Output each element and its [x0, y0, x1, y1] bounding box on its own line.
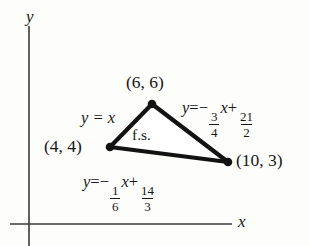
equation-right-slope-fraction: 34 — [209, 110, 220, 139]
equation-right-constant-numerator: 21 — [238, 110, 255, 124]
vertex-dot-top — [148, 100, 157, 109]
equation-bottom-slope-numerator: 1 — [110, 184, 121, 198]
vertex-label-6-6: (6, 6) — [126, 74, 164, 92]
equation-right-edge: y=−34x+212 — [182, 100, 256, 139]
equation-right-equals: = — [189, 98, 198, 117]
equation-bottom-sign: − — [100, 172, 109, 191]
equation-right-sign: − — [199, 98, 208, 117]
x-axis-label: x — [238, 213, 246, 230]
vertex-dot-right — [224, 158, 233, 167]
equation-bottom-equals: = — [90, 172, 99, 191]
equation-bottom-slope-denominator: 6 — [110, 198, 121, 213]
equation-right-constant-denominator: 2 — [241, 124, 252, 139]
equation-bottom-constant-denominator: 3 — [142, 198, 153, 213]
feasible-set-annotation: f.s. — [132, 127, 151, 143]
equation-right-constant-fraction: 212 — [238, 110, 255, 139]
feasible-set-figure: y x (6, 6) (4, 4) (10, 3) f.s. y = x y=−… — [0, 0, 309, 246]
equation-left-edge: y = x — [81, 110, 115, 127]
equation-bottom-variable: x — [121, 172, 128, 191]
equation-bottom-edge: y=−16x+143 — [83, 174, 157, 213]
equation-right-slope-denominator: 4 — [209, 124, 220, 139]
equation-bottom-slope-fraction: 16 — [110, 184, 121, 213]
vertex-label-10-3: (10, 3) — [236, 152, 283, 170]
vertex-label-4-4: (4, 4) — [44, 138, 82, 156]
equation-right-slope-numerator: 3 — [209, 110, 220, 124]
equation-bottom-plus: + — [129, 172, 138, 191]
equation-bottom-constant-numerator: 14 — [139, 184, 156, 198]
vertex-dot-left — [106, 143, 115, 152]
equation-right-variable: x — [220, 98, 227, 117]
equation-bottom-constant-fraction: 143 — [139, 184, 156, 213]
equation-right-plus: + — [228, 98, 237, 117]
y-axis-label: y — [26, 8, 34, 25]
